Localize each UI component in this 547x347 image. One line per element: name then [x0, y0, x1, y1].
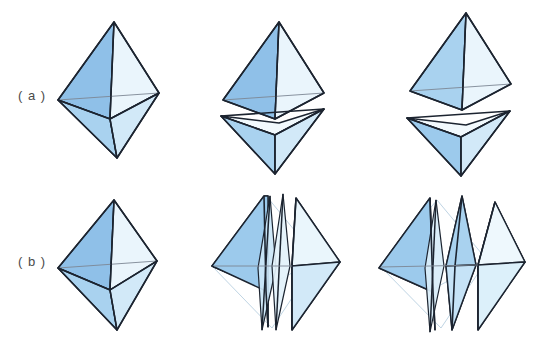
row-label-b: ( b ) [18, 254, 46, 269]
octahedron-dissection-figure: ( a ) [0, 0, 547, 347]
figure-root: ( a ) [0, 0, 547, 347]
row-label-a: ( a ) [18, 88, 46, 103]
